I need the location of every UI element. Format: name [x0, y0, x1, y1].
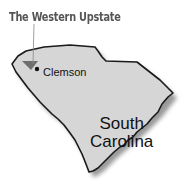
south-carolina-map [0, 0, 190, 190]
state-label-line1: South [90, 115, 153, 133]
clemson-dot-icon [35, 67, 39, 71]
map-title: The Western Upstate [9, 9, 121, 24]
south-carolina-outline [12, 45, 173, 172]
state-label: South Carolina [90, 115, 153, 151]
state-label-line2: Carolina [90, 133, 153, 151]
city-label-clemson: Clemson [43, 66, 86, 78]
